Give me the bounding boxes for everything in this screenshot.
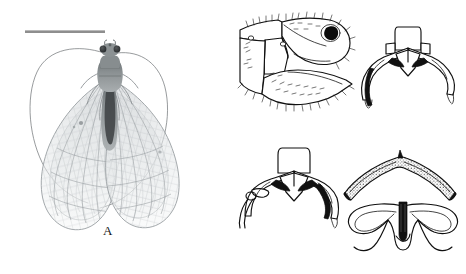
panel-b-terminalia-lateral: B xyxy=(238,12,362,112)
arch-apical-point xyxy=(398,150,403,158)
panel-label-a: A xyxy=(103,224,113,237)
gonarcus-arch-drawing xyxy=(340,148,460,204)
compound-eye-left xyxy=(100,45,107,52)
gonarcus-band xyxy=(344,157,456,200)
central-sclerite xyxy=(399,202,407,241)
panel-f-gonosaccus: F xyxy=(346,200,460,260)
figure-plate: A xyxy=(0,0,466,274)
terminalia-lateral-drawing xyxy=(238,12,362,112)
sensillum-mid xyxy=(280,42,285,46)
callus-cerci-spot xyxy=(324,26,338,40)
scale-bar xyxy=(25,30,105,33)
lacewing-habitus-image xyxy=(0,0,233,274)
compound-eye-right xyxy=(114,45,121,52)
panel-a-photograph: A xyxy=(0,0,233,274)
panel-d-gonarcus: D xyxy=(238,146,352,230)
gonosaccus-drawing xyxy=(346,200,460,260)
panel-e-gonarcus-arch: E xyxy=(340,148,460,204)
panel-c-gonarcus: C xyxy=(356,24,460,110)
gonarcus-mediuncus-drawing-c xyxy=(356,24,460,110)
gonarcus-mediuncus-drawing-d xyxy=(238,146,352,230)
sensillum-left xyxy=(248,36,253,40)
